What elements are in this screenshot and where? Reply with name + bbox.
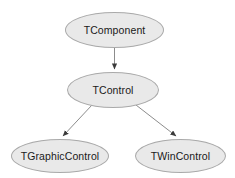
class-hierarchy-diagram: TComponent TControl TGraphicControl TWin… xyxy=(0,0,235,178)
node-tcomponent[interactable]: TComponent xyxy=(65,12,164,48)
edge-tcontrol-tgraphiccontrol xyxy=(63,105,92,136)
node-tcontrol-label: TControl xyxy=(92,85,133,96)
node-tcontrol[interactable]: TControl xyxy=(67,72,159,108)
node-twincontrol[interactable]: TWinControl xyxy=(135,139,226,173)
node-tcomponent-label: TComponent xyxy=(84,25,146,36)
node-twincontrol-label: TWinControl xyxy=(151,151,210,162)
edge-tcontrol-twincontrol xyxy=(136,105,176,136)
node-tgraphiccontrol[interactable]: TGraphicControl xyxy=(11,139,109,173)
node-tgraphiccontrol-label: TGraphicControl xyxy=(21,151,100,162)
